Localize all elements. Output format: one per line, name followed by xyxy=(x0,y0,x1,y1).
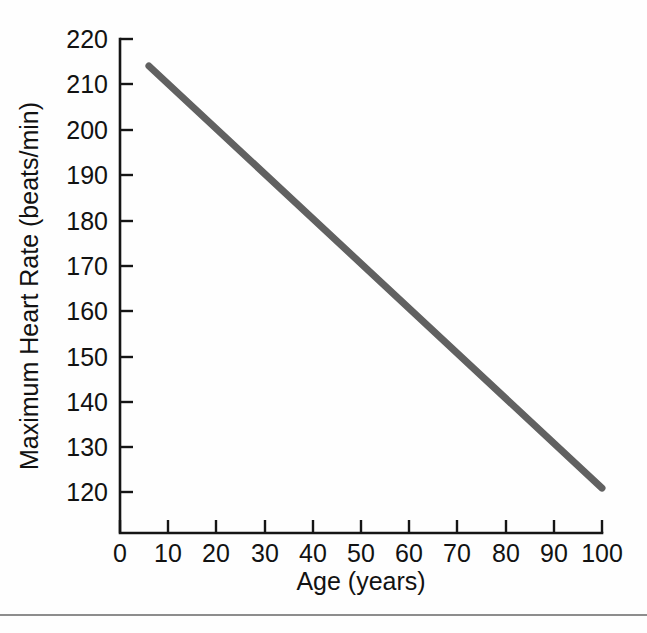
x-tick-label: 0 xyxy=(113,539,127,567)
y-tick-label: 190 xyxy=(66,161,108,189)
x-tick-label: 30 xyxy=(251,539,279,567)
y-tick-label: 130 xyxy=(66,433,108,461)
x-tick-label: 60 xyxy=(395,539,423,567)
y-tick-label: 210 xyxy=(66,70,108,98)
x-tick-label: 100 xyxy=(581,539,623,567)
x-tick-label: 20 xyxy=(202,539,230,567)
y-axis-ticks xyxy=(120,39,133,492)
axis-spines xyxy=(120,39,602,533)
x-tick-label: 40 xyxy=(299,539,327,567)
x-tick-label: 90 xyxy=(540,539,568,567)
y-tick-label: 150 xyxy=(66,343,108,371)
y-tick-label: 160 xyxy=(66,297,108,325)
x-tick-label: 70 xyxy=(443,539,471,567)
chart-figure: 220 210 200 190 180 170 160 150 140 130 … xyxy=(0,0,647,633)
x-axis-title: Age (years) xyxy=(296,567,425,595)
chart-plot-area: 220 210 200 190 180 170 160 150 140 130 … xyxy=(0,0,647,633)
y-tick-label: 200 xyxy=(66,116,108,144)
x-tick-label: 80 xyxy=(492,539,520,567)
data-series-line xyxy=(149,66,602,488)
footer-divider xyxy=(0,614,647,616)
x-tick-label: 10 xyxy=(154,539,182,567)
x-tick-label: 50 xyxy=(347,539,375,567)
y-tick-label: 140 xyxy=(66,388,108,416)
y-axis-title: Maximum Heart Rate (beats/min) xyxy=(15,102,43,470)
y-tick-label: 120 xyxy=(66,478,108,506)
x-axis-tick-labels: 0 10 20 30 40 50 60 70 80 90 100 xyxy=(113,539,623,567)
y-tick-label: 170 xyxy=(66,252,108,280)
y-axis-tick-labels: 220 210 200 190 180 170 160 150 140 130 … xyxy=(66,25,108,506)
y-tick-label: 220 xyxy=(66,25,108,53)
y-tick-label: 180 xyxy=(66,207,108,235)
x-axis-ticks xyxy=(120,520,602,533)
